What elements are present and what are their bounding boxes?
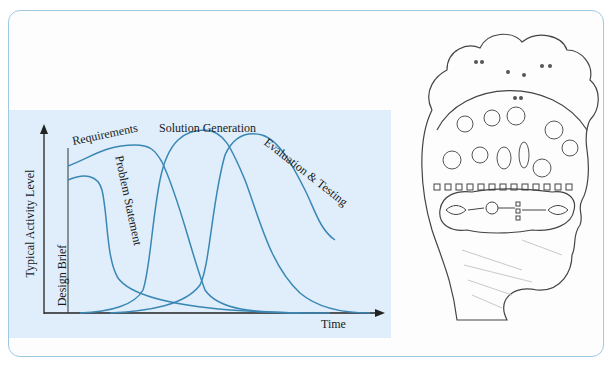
x-axis-label: Time [321, 317, 346, 332]
problem-statement-curve [68, 176, 330, 313]
y-axis-arrow-icon [40, 124, 48, 134]
head-with-lightbulbs-icon [412, 20, 602, 350]
phase-label-design-brief: Design Brief [55, 236, 70, 316]
x-axis-arrow-icon [375, 309, 385, 317]
phase-label-solution-generation: Solution Generation [159, 121, 256, 136]
y-axis-label: Typical Activity Level [23, 164, 38, 284]
requirements-curve [68, 145, 300, 313]
reasoning-cloud [440, 189, 575, 233]
